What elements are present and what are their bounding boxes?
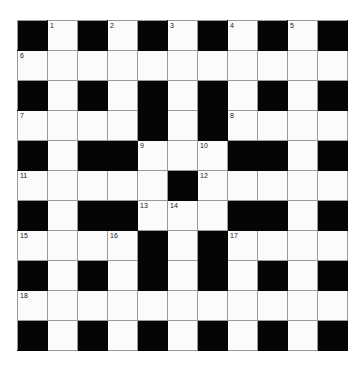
crossword-open-cell[interactable] xyxy=(228,171,258,201)
crossword-open-cell[interactable] xyxy=(108,81,138,111)
crossword-block-cell xyxy=(138,81,168,111)
crossword-open-cell[interactable] xyxy=(228,51,258,81)
crossword-open-cell[interactable] xyxy=(168,51,198,81)
crossword-open-cell[interactable] xyxy=(168,81,198,111)
crossword-open-cell[interactable]: 12 xyxy=(198,171,228,201)
crossword-open-cell[interactable]: 6 xyxy=(18,51,48,81)
crossword-open-cell[interactable] xyxy=(318,171,348,201)
crossword-open-cell[interactable] xyxy=(48,201,78,231)
crossword-open-cell[interactable] xyxy=(78,231,108,261)
crossword-open-cell[interactable]: 4 xyxy=(228,21,258,51)
cell-number: 2 xyxy=(110,21,114,31)
crossword-open-cell[interactable] xyxy=(78,51,108,81)
crossword-open-cell[interactable] xyxy=(168,141,198,171)
crossword-open-cell[interactable] xyxy=(48,231,78,261)
crossword-open-cell[interactable] xyxy=(288,201,318,231)
crossword-open-cell[interactable]: 10 xyxy=(198,141,228,171)
crossword-open-cell[interactable] xyxy=(198,201,228,231)
crossword-open-cell[interactable] xyxy=(288,171,318,201)
crossword-open-cell[interactable]: 13 xyxy=(138,201,168,231)
crossword-open-cell[interactable] xyxy=(138,291,168,321)
crossword-open-cell[interactable] xyxy=(288,261,318,291)
crossword-open-cell[interactable] xyxy=(258,111,288,141)
crossword-open-cell[interactable] xyxy=(48,111,78,141)
crossword-open-cell[interactable] xyxy=(138,51,168,81)
crossword-open-cell[interactable] xyxy=(48,141,78,171)
crossword-open-cell[interactable]: 15 xyxy=(18,231,48,261)
crossword-row: 910 xyxy=(18,141,348,171)
crossword-open-cell[interactable] xyxy=(258,231,288,261)
crossword-open-cell[interactable] xyxy=(288,111,318,141)
cell-number: 14 xyxy=(170,201,178,211)
crossword-open-cell[interactable] xyxy=(108,291,138,321)
crossword-open-cell[interactable] xyxy=(48,81,78,111)
crossword-open-cell[interactable] xyxy=(78,171,108,201)
crossword-open-cell[interactable] xyxy=(288,81,318,111)
cell-number: 12 xyxy=(200,171,208,181)
crossword-open-cell[interactable] xyxy=(318,291,348,321)
crossword-open-cell[interactable] xyxy=(168,261,198,291)
crossword-open-cell[interactable] xyxy=(108,111,138,141)
crossword-open-cell[interactable] xyxy=(258,291,288,321)
crossword-row: 1112 xyxy=(18,171,348,201)
crossword-open-cell[interactable] xyxy=(168,321,198,351)
crossword-open-cell[interactable] xyxy=(258,171,288,201)
crossword-open-cell[interactable]: 3 xyxy=(168,21,198,51)
crossword-open-cell[interactable] xyxy=(78,111,108,141)
crossword-open-cell[interactable] xyxy=(288,291,318,321)
crossword-open-cell[interactable] xyxy=(198,291,228,321)
crossword-open-cell[interactable] xyxy=(228,81,258,111)
cell-number: 1 xyxy=(50,21,54,31)
crossword-open-cell[interactable]: 17 xyxy=(228,231,258,261)
cell-number: 15 xyxy=(20,231,28,241)
crossword-open-cell[interactable] xyxy=(288,51,318,81)
cell-number: 17 xyxy=(230,231,238,241)
crossword-open-cell[interactable]: 16 xyxy=(108,231,138,261)
crossword-open-cell[interactable]: 8 xyxy=(228,111,258,141)
cell-number: 7 xyxy=(20,111,24,121)
crossword-open-cell[interactable] xyxy=(318,51,348,81)
crossword-open-cell[interactable] xyxy=(108,171,138,201)
crossword-open-cell[interactable] xyxy=(138,171,168,201)
crossword-open-cell[interactable] xyxy=(48,171,78,201)
crossword-open-cell[interactable] xyxy=(258,51,288,81)
crossword-block-cell xyxy=(18,141,48,171)
crossword-open-cell[interactable] xyxy=(48,51,78,81)
crossword-open-cell[interactable] xyxy=(48,321,78,351)
crossword-open-cell[interactable] xyxy=(108,51,138,81)
crossword-open-cell[interactable]: 14 xyxy=(168,201,198,231)
crossword-open-cell[interactable] xyxy=(288,141,318,171)
crossword-block-cell xyxy=(258,321,288,351)
crossword-open-cell[interactable] xyxy=(48,261,78,291)
crossword-block-cell xyxy=(138,231,168,261)
crossword-open-cell[interactable]: 18 xyxy=(18,291,48,321)
crossword-open-cell[interactable] xyxy=(228,261,258,291)
crossword-grid[interactable]: 123456789101112131415161718 xyxy=(17,20,348,351)
crossword-row xyxy=(18,81,348,111)
crossword-open-cell[interactable]: 7 xyxy=(18,111,48,141)
crossword-open-cell[interactable] xyxy=(168,111,198,141)
crossword-open-cell[interactable]: 11 xyxy=(18,171,48,201)
crossword-open-cell[interactable] xyxy=(78,291,108,321)
crossword-open-cell[interactable] xyxy=(48,291,78,321)
crossword-open-cell[interactable] xyxy=(228,321,258,351)
crossword-open-cell[interactable] xyxy=(288,321,318,351)
crossword-open-cell[interactable] xyxy=(108,261,138,291)
crossword-open-cell[interactable] xyxy=(198,51,228,81)
crossword-open-cell[interactable]: 5 xyxy=(288,21,318,51)
crossword-block-cell xyxy=(78,261,108,291)
crossword-open-cell[interactable] xyxy=(108,321,138,351)
cell-number: 5 xyxy=(290,21,294,31)
crossword-open-cell[interactable] xyxy=(318,231,348,261)
crossword-open-cell[interactable] xyxy=(228,291,258,321)
crossword-open-cell[interactable] xyxy=(168,231,198,261)
crossword-open-cell[interactable] xyxy=(288,231,318,261)
crossword-row: 6 xyxy=(18,51,348,81)
crossword-open-cell[interactable] xyxy=(318,111,348,141)
crossword-block-cell xyxy=(258,21,288,51)
crossword-block-cell xyxy=(18,321,48,351)
crossword-open-cell[interactable] xyxy=(168,291,198,321)
crossword-open-cell[interactable]: 2 xyxy=(108,21,138,51)
crossword-open-cell[interactable]: 9 xyxy=(138,141,168,171)
crossword-open-cell[interactable]: 1 xyxy=(48,21,78,51)
